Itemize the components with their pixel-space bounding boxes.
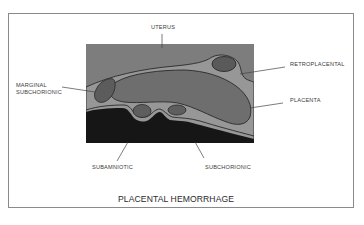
figure-title: PLACENTAL HEMORRHAGE [118, 194, 234, 204]
subamniotic-hemorrhage [133, 105, 151, 118]
retroplacental-hemorrhage [212, 57, 236, 72]
leader-placenta [250, 103, 283, 108]
label-subamniotic: SUBAMNIOTIC [92, 164, 133, 171]
label-subchorionic: SUBCHORIONIC [205, 164, 251, 171]
label-uterus: UTERUS [151, 24, 175, 31]
placental-hemorrhage-illustration [0, 0, 364, 225]
label-retroplacental: RETROPLACENTAL [290, 61, 345, 68]
label-marginal-line1: MARGINAL [16, 82, 47, 89]
label-marginal-line2: SUBCHORIONIC [16, 89, 62, 96]
ultrasound-image [86, 44, 254, 143]
label-placenta: PLACENTA [290, 97, 321, 104]
leader-subamniotic [117, 142, 128, 161]
leader-subchorionic [195, 142, 204, 158]
subchorionic-hemorrhage [168, 105, 186, 115]
